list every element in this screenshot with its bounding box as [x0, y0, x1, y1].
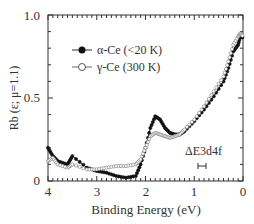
legend: α-Ce (<20 K) γ-Ce (300 K)	[72, 43, 162, 74]
open-circle-icon	[79, 64, 86, 71]
y-axis-label: Rb (ε; μ=1.1)	[7, 66, 21, 131]
y-tick-0: 0	[34, 173, 41, 188]
y-tick-1: 1.0	[24, 8, 40, 23]
filled-circle-icon	[79, 47, 86, 54]
delta-e-bar	[198, 163, 206, 169]
x-tick-4: 4	[45, 184, 52, 199]
x-tick-0: 0	[240, 184, 247, 199]
y-tick-0.5: 0.5	[24, 90, 40, 105]
delta-e-annotation: ΔE3d4f	[185, 144, 222, 158]
legend-gamma: γ-Ce (300 K)	[96, 60, 160, 74]
x-tick-1: 1	[191, 184, 198, 199]
x-tick-2: 2	[143, 184, 150, 199]
x-tick-3: 3	[94, 184, 101, 199]
chart: 0 0.5 1.0 4 3 2 1 0 Binding Energy (eV) …	[0, 0, 254, 224]
legend-alpha: α-Ce (<20 K)	[97, 43, 162, 57]
x-axis-label: Binding Energy (eV)	[91, 202, 201, 217]
